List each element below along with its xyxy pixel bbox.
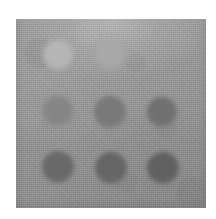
scan-figure xyxy=(0,0,216,219)
scan-substrate-panel xyxy=(16,19,206,208)
substrate-vignette xyxy=(16,19,206,208)
